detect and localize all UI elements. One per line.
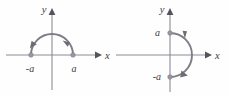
point-label-a: a [155,27,160,38]
y-axis-arrowhead [49,8,56,15]
y-axis-arrowhead [167,8,174,15]
x-axis-arrowhead [205,52,212,59]
figure-root: x y -a a x y [0,0,229,97]
endpoint-dot-a [168,31,173,36]
x-axis-label: x [214,50,220,61]
x-axis-label: x [104,50,110,61]
panel-upper-semicircle: x y -a a [0,0,114,97]
endpoint-dot-negative-a [168,75,173,80]
x-axis-arrowhead [95,52,102,59]
panel-right-semicircle: x y a -a [114,0,229,97]
endpoint-dot-negative-a [29,53,34,58]
y-axis-label: y [159,4,165,15]
point-label-negative-a: -a [153,71,161,82]
y-axis-label: y [41,4,47,15]
endpoint-dot-a [71,53,76,58]
point-label-a: a [72,63,77,74]
point-label-negative-a: -a [26,63,34,74]
